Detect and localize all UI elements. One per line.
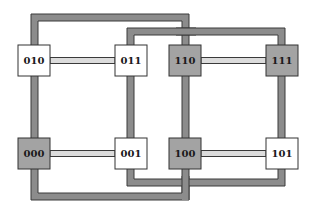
node-label: 010 xyxy=(24,55,45,66)
outer-loop xyxy=(31,14,189,200)
node-101: 101 xyxy=(266,138,298,169)
node-label: 100 xyxy=(175,148,196,159)
outer-loop-frame xyxy=(31,14,189,200)
node-110: 110 xyxy=(169,45,201,76)
inner-loop xyxy=(127,28,285,186)
inner-loop-frame xyxy=(127,28,285,186)
node-111: 111 xyxy=(266,45,298,76)
node-label: 111 xyxy=(272,55,293,66)
hypercube-diagram: 010011110111000001100101 xyxy=(0,0,315,213)
node-label: 001 xyxy=(121,148,142,159)
node-011: 011 xyxy=(115,45,147,76)
node-label: 011 xyxy=(121,55,142,66)
node-000: 000 xyxy=(18,138,50,169)
link-100-101 xyxy=(201,151,266,157)
node-100: 100 xyxy=(169,138,201,169)
node-010: 010 xyxy=(18,45,50,76)
node-label: 000 xyxy=(24,148,45,159)
node-label: 101 xyxy=(272,148,293,159)
inner-loop-crossing-segment xyxy=(176,28,196,35)
link-010-011 xyxy=(50,58,115,64)
node-001: 001 xyxy=(115,138,147,169)
link-000-001 xyxy=(50,151,115,157)
node-label: 110 xyxy=(175,55,196,66)
outer-loop-crossing-segment xyxy=(182,176,189,200)
horizontal-links xyxy=(50,58,266,157)
link-110-111 xyxy=(201,58,266,64)
